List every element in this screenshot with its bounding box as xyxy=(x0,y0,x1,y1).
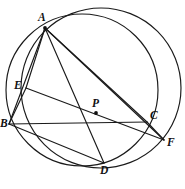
point-dot-a xyxy=(43,26,47,30)
geometry-figure: AEBPCFD xyxy=(0,0,185,189)
point-label-f: F xyxy=(167,137,175,149)
point-dot-p xyxy=(94,111,98,115)
circle-through-A-B-D-C xyxy=(6,14,158,166)
point-label-a: A xyxy=(38,12,46,24)
circle-through-A-D-F xyxy=(21,8,181,168)
figure-canvas xyxy=(0,0,185,189)
point-label-d: D xyxy=(100,165,108,177)
segments-group xyxy=(9,28,164,163)
point-label-c: C xyxy=(150,110,158,122)
point-label-p: P xyxy=(92,98,99,110)
point-label-b: B xyxy=(0,118,8,130)
circles-group xyxy=(6,8,181,168)
segment-a-e xyxy=(26,28,45,88)
point-label-e: E xyxy=(14,80,22,92)
segment-a-b xyxy=(9,28,45,124)
